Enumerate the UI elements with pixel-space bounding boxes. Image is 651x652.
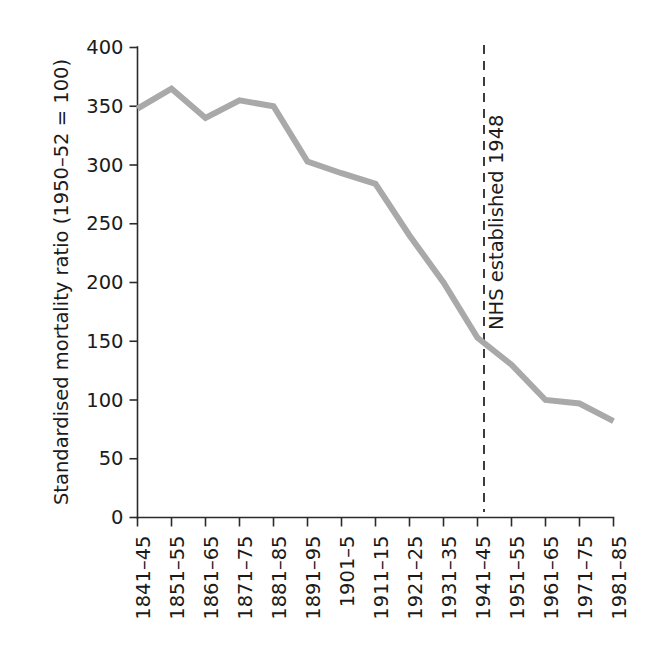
x-tick-label: 1951–55 — [506, 536, 529, 620]
annotation-group: NHS established 1948 — [484, 45, 508, 512]
y-tick-label: 350 — [86, 95, 123, 118]
y-tick-label: 100 — [86, 389, 123, 412]
y-tick-label: 300 — [86, 154, 123, 177]
x-tick-label: 1941–45 — [472, 536, 495, 620]
y-axis-title: Standardised mortality ratio (1950–52 = … — [50, 59, 73, 505]
x-tick-label: 1911–15 — [370, 536, 393, 620]
mortality-ratio-line — [138, 89, 614, 422]
nhs-established-label: NHS established 1948 — [485, 114, 508, 330]
y-tick-label: 0 — [111, 506, 123, 529]
series-group — [138, 89, 614, 422]
x-tick-label: 1871–75 — [234, 536, 257, 620]
y-tick-label: 50 — [99, 447, 124, 470]
x-tick-label: 1881–85 — [268, 536, 291, 620]
x-tick-label: 1851–55 — [166, 536, 189, 620]
x-tick-label: 1931–35 — [438, 536, 461, 620]
x-tick-label: 1901–5 — [336, 536, 359, 608]
y-axis-title-group: Standardised mortality ratio (1950–52 = … — [50, 59, 73, 505]
x-tick-label: 1961–65 — [540, 536, 563, 620]
y-tick-group: 050100150200250300350400 — [86, 36, 137, 529]
y-tick-label: 250 — [86, 212, 123, 235]
x-tick-label: 1841–45 — [132, 536, 155, 620]
y-tick-label: 400 — [86, 36, 123, 59]
x-tick-label: 1981–85 — [608, 536, 631, 620]
x-tick-label: 1921–25 — [404, 536, 427, 620]
x-tick-group — [138, 518, 614, 527]
x-tick-label: 1971–75 — [574, 536, 597, 620]
x-tick-label: 1861–65 — [200, 536, 223, 620]
x-tick-label: 1891–95 — [302, 536, 325, 620]
x-tick-label-group: 1841–451851–551861–651871–751881–851891–… — [132, 536, 631, 620]
y-tick-label: 200 — [86, 271, 123, 294]
line-chart-svg: Standardised mortality ratio (1950–52 = … — [0, 0, 651, 652]
chart-figure: Standardised mortality ratio (1950–52 = … — [0, 0, 651, 652]
y-tick-label: 150 — [86, 330, 123, 353]
